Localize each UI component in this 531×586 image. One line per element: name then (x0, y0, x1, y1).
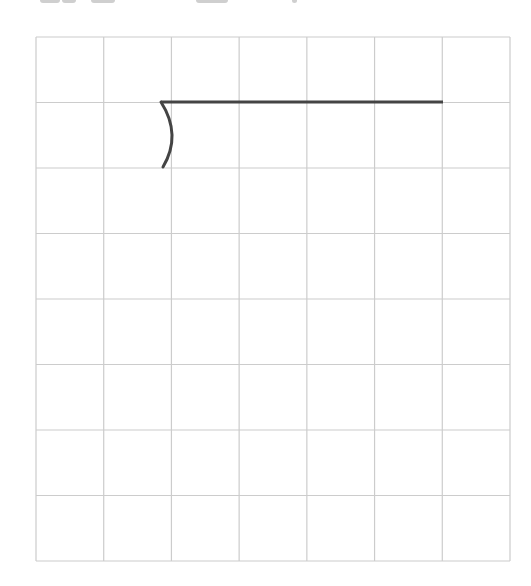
grid (36, 37, 510, 561)
worksheet-canvas (0, 0, 531, 586)
division-curve (161, 102, 172, 167)
long-division-bracket (161, 102, 443, 167)
